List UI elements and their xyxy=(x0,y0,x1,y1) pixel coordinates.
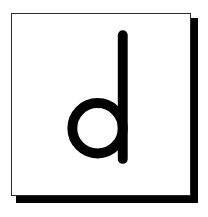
letter-d-icon xyxy=(12,14,190,195)
flashcard-image: d xyxy=(0,0,208,217)
letter-glyph-area: d xyxy=(12,14,190,195)
letter-card[interactable]: d xyxy=(11,13,191,196)
